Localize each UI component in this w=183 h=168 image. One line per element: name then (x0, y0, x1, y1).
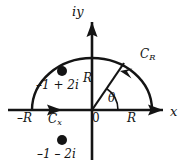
segment-contour-label: Cx (48, 113, 62, 126)
pole-marker-upper (57, 66, 67, 76)
pole-label-upper: –1 + 2i (36, 79, 79, 91)
origin-label: 0 (92, 112, 100, 124)
segment-contour-subscript: x (57, 117, 62, 127)
real-axis-label: x (170, 105, 177, 118)
arc-contour-label: CR (140, 48, 155, 61)
radius-label: R (83, 72, 92, 84)
pole-marker-lower (57, 135, 67, 145)
imaginary-axis-label: iy (72, 5, 84, 18)
arc-contour-subscript: R (149, 52, 155, 62)
pole-label-lower: –1 – 2i (37, 148, 76, 160)
left-endpoint-label: –R (17, 112, 32, 124)
imaginary-axis (87, 22, 98, 160)
contour-figure: iy x CR Cx R θ 0 R –R –1 + 2i –1 – 2i (0, 0, 183, 168)
arc-contour-letter: C (140, 47, 149, 61)
angle-theta-label: θ (108, 92, 115, 104)
segment-contour-letter: C (48, 112, 57, 126)
right-endpoint-label: R (127, 112, 136, 124)
